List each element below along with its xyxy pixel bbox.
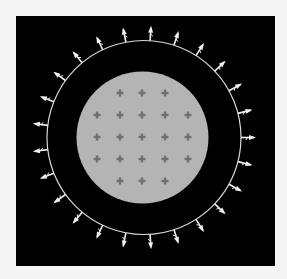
diagram-canvas — [0, 0, 287, 279]
radial-flux-diagram — [0, 0, 287, 279]
